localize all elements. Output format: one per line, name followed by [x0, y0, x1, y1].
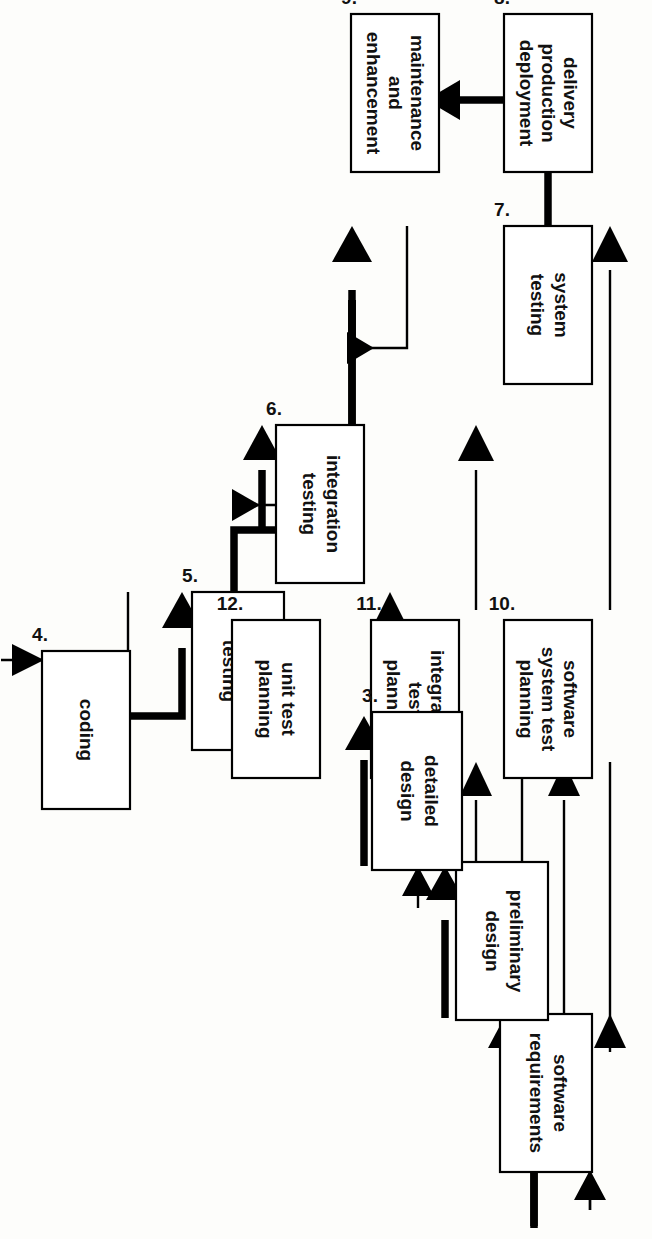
connector-10-to-1	[594, 762, 626, 1052]
node-label-line: unit test	[278, 662, 299, 737]
node-delivery-production-deployment[interactable]: delivery production deployment 8.	[494, 0, 592, 172]
node-label-line: integration	[323, 455, 344, 553]
node-label-line: requirements	[526, 1033, 547, 1153]
node-integration-testing[interactable]: integration testing 6.	[266, 398, 364, 583]
node-label-line: software	[550, 1054, 571, 1132]
diagram-canvas: delivery production deployment 8. mainte…	[0, 0, 652, 1239]
node-label-line: preliminary	[506, 890, 527, 993]
node-label-line: deployment	[516, 40, 537, 147]
node-label-line: testing	[527, 274, 548, 336]
node-label-line: software	[560, 660, 581, 738]
node-number: 11.	[356, 593, 381, 614]
node-label-line: production	[538, 43, 559, 142]
node-detailed-design[interactable]: detailed design 3.	[362, 685, 462, 870]
node-number: 10.	[489, 593, 515, 614]
connector-1-to-10	[548, 762, 580, 1014]
node-label-line: enhancement	[363, 32, 384, 155]
node-label-line: coding	[76, 699, 97, 761]
connector-2-to-11	[460, 762, 492, 862]
node-label-line: design	[397, 760, 418, 821]
node-label-line: testing	[299, 473, 320, 535]
node-coding[interactable]: coding 4.	[32, 624, 130, 809]
node-label-line: design	[482, 910, 503, 971]
node-label-line: detailed	[421, 755, 442, 827]
node-number: 5.	[182, 565, 198, 586]
node-number: 9.	[341, 0, 357, 8]
node-label-line: maintenance	[407, 35, 428, 151]
node-number: 8.	[494, 0, 510, 8]
node-maintenance-and-enhancement[interactable]: maintenance and enhancement 9.	[341, 0, 439, 172]
node-system-testing[interactable]: system testing 7.	[494, 199, 592, 384]
node-software-system-test-planning[interactable]: software system test planning 10.	[489, 593, 592, 778]
node-unit-test-planning[interactable]: unit test planning 12.	[217, 593, 320, 778]
node-label-line: system	[551, 272, 572, 338]
node-label-line: system test	[538, 647, 559, 752]
node-number: 7.	[494, 199, 510, 220]
connector-6-to-7	[332, 226, 372, 425]
node-label-line: planning	[516, 659, 537, 738]
node-number: 4.	[32, 624, 48, 645]
node-number: 12.	[217, 593, 243, 614]
connector-11-to-6	[458, 425, 494, 610]
node-number: 6.	[266, 398, 282, 419]
node-label-line: delivery	[560, 57, 581, 129]
connector-10-to-7	[592, 226, 628, 610]
node-number: 3.	[362, 685, 378, 706]
node-label-line: planning	[255, 659, 276, 738]
v-model-diagram: delivery production deployment 8. mainte…	[0, 0, 652, 1239]
node-label-line: and	[385, 76, 406, 110]
